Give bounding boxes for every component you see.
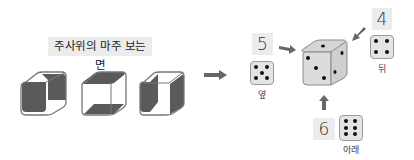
bottom-face-label: 아래 — [335, 143, 367, 156]
side-face-die-5-pips — [250, 61, 274, 85]
arrow-right-icon — [279, 43, 297, 55]
cube-top-bottom-shaded — [78, 70, 128, 116]
main-die — [299, 38, 349, 88]
back-face-label: 뒤 — [370, 62, 394, 75]
back-face-die-4-pips — [370, 35, 394, 59]
cube-front-back-shaded — [18, 70, 68, 116]
side-face-number: 5 — [252, 33, 273, 55]
side-face-label: 옆 — [250, 88, 274, 101]
bottom-face-die-6-pips — [339, 115, 363, 141]
cube-left-right-shaded — [136, 70, 186, 116]
back-face-number: 4 — [372, 8, 392, 30]
bottom-face-number: 6 — [313, 118, 335, 140]
opposite-faces-title: 주사위의 마주 보는 면 — [48, 37, 152, 56]
arrow-down-left-icon — [351, 27, 367, 43]
arrow-right-icon — [204, 70, 228, 80]
arrow-up-icon — [319, 95, 329, 110]
